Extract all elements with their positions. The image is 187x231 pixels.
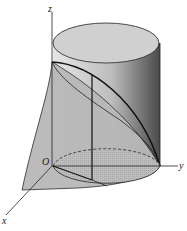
y-axis-label: y: [178, 160, 184, 171]
z-axis-label: z: [47, 3, 52, 14]
cylinder-wedge-diagram: z y x O: [0, 0, 187, 231]
origin-label: O: [42, 156, 49, 167]
x-axis-label: x: [1, 215, 7, 226]
